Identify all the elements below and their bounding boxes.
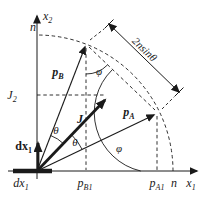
extension-line-from-B-dashed [90,29,104,40]
vector-pA-label: pA [122,105,135,121]
figure-vector-rotation-diagram: x2 x1 n n pB pA J dx1 J2 dx1 pB1 pA1 θ θ… [0,0,213,200]
x2-axis-label: x2 [42,9,52,25]
phi-label-at-A: φ [116,142,122,154]
J2-projection-label: J2 [7,88,16,104]
pA1-projection-label: pA1 [149,176,165,192]
vector-pB [37,47,85,171]
vector-J-label: J [76,112,84,126]
radius-n-label-on-y: n [30,20,36,34]
radius-n-label-on-x: n [171,176,177,190]
pB1-projection-label: pB1 [77,176,93,192]
theta-lower-label: θ [72,136,78,148]
vector-dx1-label: dx1 [15,139,32,155]
chord-dimension-line [109,24,179,92]
x1-axis-label: x1 [185,176,195,192]
vector-pB-label: pB [51,65,64,81]
extension-line-from-A-dashed [162,97,174,109]
diagram-canvas: x2 x1 n n pB pA J dx1 J2 dx1 pB1 pA1 θ θ… [0,0,213,200]
dx1-axis-label: dx1 [13,176,28,192]
theta-upper-arc [51,136,64,144]
vector-J [37,100,105,171]
theta-upper-label: θ [53,124,59,136]
phi-label-at-B: φ [96,65,102,77]
